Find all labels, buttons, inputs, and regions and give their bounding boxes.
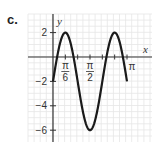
chart: xy 2−2−4−6π6π2π (0, 0, 159, 148)
x-tick-label-denominator: 6 (63, 72, 69, 83)
y-tick-label: 2 (41, 27, 47, 38)
x-axis-label: x (142, 43, 148, 55)
x-tick-label: π (129, 61, 136, 72)
x-tick-label-numerator: π (87, 60, 94, 71)
y-tick-label: −4 (36, 100, 48, 111)
y-axis-label: y (56, 15, 62, 27)
y-tick-label: −2 (36, 76, 48, 87)
x-tick-label-numerator: π (62, 60, 69, 71)
y-tick-label: −6 (36, 125, 48, 136)
x-tick-label-denominator: 2 (87, 72, 93, 83)
